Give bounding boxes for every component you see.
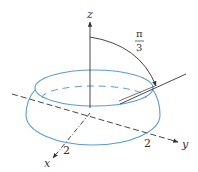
diagram-canvas: z π 3 2 y 2 x: [0, 0, 198, 172]
solid-top-rim: [35, 70, 153, 106]
angle-arc: [90, 37, 156, 86]
y-tick-label: 2: [144, 137, 151, 150]
angle-numerator: π: [136, 28, 143, 39]
angle-denominator: 3: [136, 42, 142, 53]
y-axis-label: y: [181, 138, 189, 151]
solid-right-side: [153, 90, 160, 115]
x-axis-label: x: [44, 157, 51, 170]
solid-left-side: [26, 90, 35, 115]
z-axis-label: z: [86, 8, 93, 21]
solid-bottom-rim: [26, 115, 160, 145]
solid-region-figure: z π 3 2 y 2 x: [0, 0, 198, 172]
y-axis-line: [12, 94, 178, 142]
x-axis-line: [53, 113, 90, 158]
x-tick-label: 2: [63, 144, 70, 157]
